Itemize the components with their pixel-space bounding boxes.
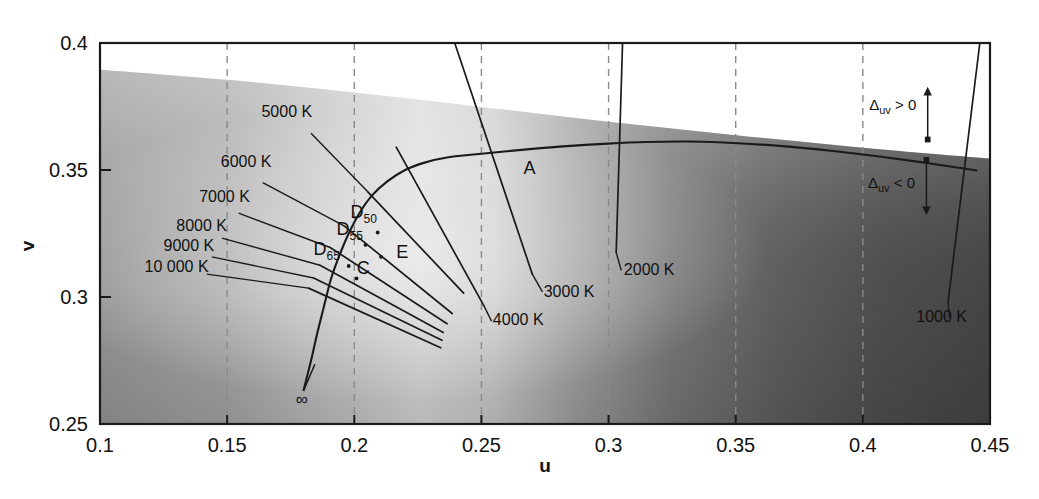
- isotherm-label-8000K: 8000 K: [176, 217, 227, 234]
- isotherm-label-6000K: 6000 K: [221, 153, 272, 170]
- x-tick-label-0.2: 0.2: [340, 434, 368, 456]
- x-axis-title: u: [539, 455, 551, 476]
- ucs-chromaticity-diagram: 0.10.150.20.250.30.350.40.450.250.30.350…: [0, 0, 1039, 499]
- illuminant-point-D65: [347, 264, 351, 268]
- y-tick-label-0.3: 0.3: [60, 286, 88, 308]
- illuminant-point-D55: [364, 243, 368, 247]
- x-tick-label-0.35: 0.35: [716, 434, 755, 456]
- x-tick-label-0.15: 0.15: [208, 434, 247, 456]
- illuminant-point-D50: [376, 231, 380, 235]
- y-axis-title: v: [17, 240, 38, 251]
- isotherm-label-7000K: 7000 K: [199, 188, 250, 205]
- x-tick-label-0.4: 0.4: [849, 434, 877, 456]
- x-tick-label-0.45: 0.45: [971, 434, 1010, 456]
- annotation-delta-uv-negative: Δuv < 0: [868, 174, 915, 194]
- x-tick-label-0.25: 0.25: [462, 434, 501, 456]
- isotherm-label-4000K: 4000 K: [493, 311, 544, 328]
- illuminant-label-C: C: [357, 258, 370, 278]
- isotherm-label-10000K: 10 000 K: [145, 258, 209, 275]
- y-tick-label-0.4: 0.4: [60, 32, 88, 54]
- x-tick-label-0.1: 0.1: [86, 434, 114, 456]
- illuminant-label-E: E: [396, 242, 408, 262]
- illuminant-point-E: [379, 255, 383, 259]
- isotherm-label-9000K: 9000 K: [164, 237, 215, 254]
- annotation-infinity-marker: ∞: [296, 390, 308, 409]
- annotation-delta-uv-positive: Δuv > 0: [869, 96, 916, 116]
- illuminant-label-A: A: [523, 158, 535, 178]
- isotherm-label-1000K: 1000 K: [916, 308, 967, 325]
- x-tick-label-0.3: 0.3: [595, 434, 623, 456]
- chart-root: 0.10.150.20.250.30.350.40.450.250.30.350…: [0, 0, 1039, 499]
- y-tick-label-0.25: 0.25: [49, 413, 88, 435]
- isotherm-label-5000K: 5000 K: [261, 103, 312, 120]
- y-tick-label-0.35: 0.35: [49, 159, 88, 181]
- isotherm-label-3000K: 3000 K: [544, 283, 595, 300]
- isotherm-label-2000K: 2000 K: [624, 261, 675, 278]
